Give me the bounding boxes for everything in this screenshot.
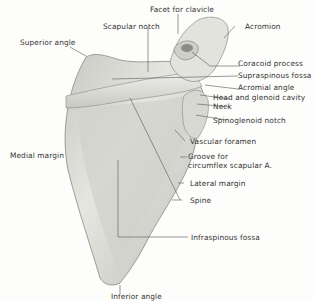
label-acromial-angle: Acromial angle [238, 83, 294, 92]
glenoid-shape [182, 90, 208, 138]
label-spine: Spine [190, 196, 211, 205]
label-acromion: Acromion [245, 22, 281, 31]
label-facet-for-clavicle: Facet for clavicle [150, 5, 214, 14]
label-groove-for-line1: Groove for [188, 152, 228, 161]
label-medial-margin: Medial margin [10, 151, 64, 160]
label-groove-for-line2: circumflex scapular A. [188, 161, 272, 170]
label-head-and-glenoid-cavity: Head and glenoid cavity [213, 93, 305, 102]
label-scapular-notch: Scapular notch [103, 22, 160, 31]
label-inferior-angle: Inferior angle [111, 292, 162, 301]
label-neck: Neck [213, 102, 232, 111]
label-vascular-foramen: Vascular foramen [190, 137, 256, 146]
label-infraspinous-fossa: Infraspinous fossa [191, 233, 260, 242]
label-coracoid-process: Coracoid process [238, 59, 303, 68]
label-spinoglenoid-notch: Spinoglenoid notch [213, 116, 286, 125]
label-supraspinous-fossa: Supraspinous fossa [238, 71, 311, 80]
label-superior-angle: Superior angle [20, 38, 76, 47]
scapula-diagram: Facet for clavicle Acromion Scapular not… [0, 0, 314, 301]
label-lateral-margin: Lateral margin [190, 179, 246, 188]
